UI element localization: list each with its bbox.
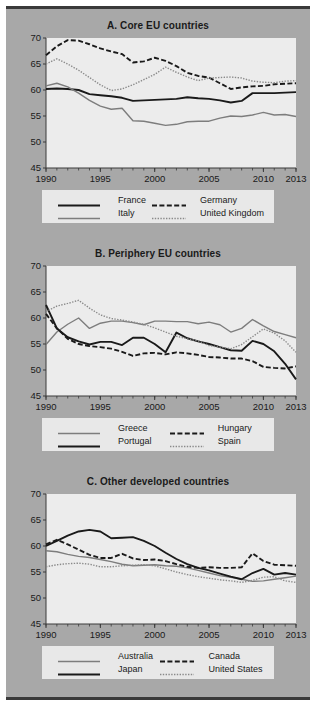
legend-label: Portugal: [114, 436, 168, 446]
svg-text:2005: 2005: [198, 173, 219, 184]
legend-swatch-japan: [56, 665, 114, 674]
legend-label: Canada: [204, 651, 268, 661]
panel-b-legend: GreeceHungaryPortugalSpain: [42, 418, 274, 451]
svg-text:2013: 2013: [285, 173, 306, 184]
legend-swatch-canada: [158, 652, 204, 661]
legend-label: Spain: [214, 436, 268, 446]
svg-text:2013: 2013: [285, 629, 306, 640]
legend-swatch-united-kingdom: [150, 209, 196, 218]
svg-text:1990: 1990: [35, 401, 56, 412]
svg-text:60: 60: [30, 312, 41, 323]
legend-label: Germany: [196, 195, 268, 205]
legend-swatch-united-states: [158, 665, 204, 674]
svg-text:2010: 2010: [253, 629, 274, 640]
svg-text:1995: 1995: [90, 173, 111, 184]
legend-grid: AustraliaCanadaJapanUnited States: [42, 646, 274, 679]
legend-label: Hungary: [214, 423, 268, 433]
panel-c-legend: AustraliaCanadaJapanUnited States: [42, 646, 274, 679]
svg-text:2000: 2000: [144, 401, 165, 412]
svg-text:2013: 2013: [285, 401, 306, 412]
svg-text:1990: 1990: [35, 629, 56, 640]
legend-swatch-germany: [150, 196, 196, 205]
top-rule: [6, 6, 310, 9]
legend-swatch-italy: [56, 209, 114, 218]
svg-text:45: 45: [30, 162, 41, 173]
svg-text:2010: 2010: [253, 401, 274, 412]
svg-text:65: 65: [30, 58, 41, 69]
svg-text:55: 55: [30, 110, 41, 121]
svg-text:1990: 1990: [35, 173, 56, 184]
legend-label: Greece: [114, 423, 168, 433]
svg-text:70: 70: [30, 32, 41, 43]
svg-text:55: 55: [30, 338, 41, 349]
panel-b: B. Periphery EU countries 45505560657019…: [6, 246, 310, 464]
legend-grid: FranceGermanyItalyUnited Kingdom: [42, 190, 274, 223]
svg-text:45: 45: [30, 390, 41, 401]
svg-text:55: 55: [30, 566, 41, 577]
panel-a-title: A. Core EU countries: [6, 20, 310, 31]
svg-text:50: 50: [30, 136, 41, 147]
legend-swatch-portugal: [56, 437, 114, 446]
legend-swatch-france: [56, 196, 114, 205]
svg-text:1995: 1995: [90, 629, 111, 640]
svg-text:50: 50: [30, 364, 41, 375]
panel-c-title: C. Other developed countries: [6, 476, 310, 487]
svg-text:70: 70: [30, 260, 41, 271]
plot-area: 455055606570199019952000200520102013: [6, 32, 310, 192]
legend-swatch-hungary: [168, 424, 214, 433]
panel-c: C. Other developed countries 45505560657…: [6, 474, 310, 696]
svg-text:65: 65: [30, 514, 41, 525]
legend-label: Japan: [114, 664, 158, 674]
legend-swatch-spain: [168, 437, 214, 446]
svg-text:2005: 2005: [198, 629, 219, 640]
legend-swatch-australia: [56, 652, 114, 661]
legend-label: Australia: [114, 651, 158, 661]
svg-text:60: 60: [30, 540, 41, 551]
svg-text:65: 65: [30, 286, 41, 297]
svg-text:60: 60: [30, 84, 41, 95]
svg-text:70: 70: [30, 488, 41, 499]
svg-text:2005: 2005: [198, 401, 219, 412]
legend-label: France: [114, 195, 150, 205]
legend-label: United States: [204, 664, 268, 674]
plot-area: 455055606570199019952000200520102013: [6, 488, 310, 648]
panel-b-title: B. Periphery EU countries: [6, 248, 310, 259]
legend-grid: GreeceHungaryPortugalSpain: [42, 418, 274, 451]
svg-text:2010: 2010: [253, 173, 274, 184]
bottom-rule: [6, 697, 310, 700]
svg-text:2000: 2000: [144, 173, 165, 184]
svg-text:50: 50: [30, 592, 41, 603]
svg-text:1995: 1995: [90, 401, 111, 412]
svg-text:2000: 2000: [144, 629, 165, 640]
svg-text:45: 45: [30, 618, 41, 629]
panel-a-legend: FranceGermanyItalyUnited Kingdom: [42, 190, 274, 223]
legend-swatch-greece: [56, 424, 114, 433]
plot-area: 455055606570199019952000200520102013: [6, 260, 310, 420]
figure-container: A. Core EU countries 4550556065701990199…: [6, 6, 310, 700]
panel-a: A. Core EU countries 4550556065701990199…: [6, 18, 310, 236]
legend-label: United Kingdom: [196, 208, 268, 218]
legend-label: Italy: [114, 208, 150, 218]
